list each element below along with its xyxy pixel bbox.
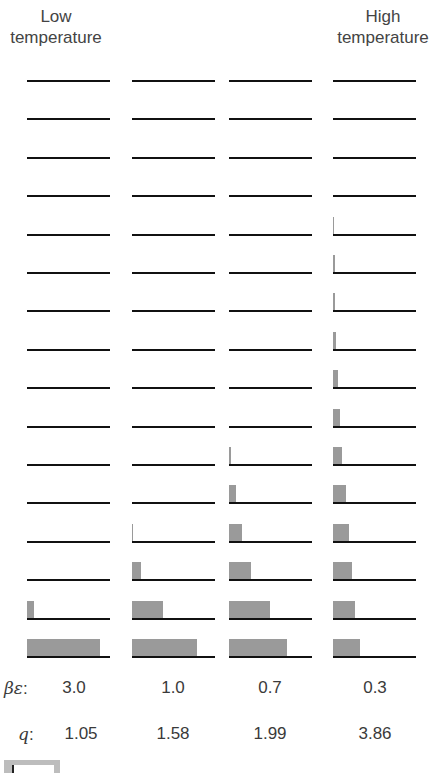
energy-level xyxy=(333,617,416,620)
level-line xyxy=(333,541,416,543)
level-line xyxy=(333,579,416,581)
level-line xyxy=(333,387,416,389)
level-line xyxy=(333,656,416,658)
energy-level xyxy=(27,117,110,120)
energy-level xyxy=(229,271,312,274)
energy-level xyxy=(333,117,416,120)
level-line xyxy=(333,195,416,197)
energy-level xyxy=(229,540,312,543)
energy-level xyxy=(132,425,215,428)
level-column-4 xyxy=(333,0,416,680)
level-line xyxy=(27,387,110,389)
level-line xyxy=(132,618,215,620)
level-line xyxy=(333,234,416,236)
energy-level xyxy=(132,233,215,236)
level-line xyxy=(333,157,416,159)
level-line xyxy=(27,272,110,274)
energy-level xyxy=(229,386,312,389)
energy-level xyxy=(132,540,215,543)
level-line xyxy=(229,80,312,82)
energy-level xyxy=(229,233,312,236)
q-value-3: 1.99 xyxy=(225,724,315,744)
energy-level xyxy=(229,194,312,197)
level-line xyxy=(27,118,110,120)
energy-level xyxy=(229,463,312,466)
energy-level xyxy=(27,156,110,159)
level-line xyxy=(27,349,110,351)
level-line xyxy=(132,80,215,82)
level-line xyxy=(229,310,312,312)
energy-level xyxy=(132,348,215,351)
level-line xyxy=(333,618,416,620)
level-line xyxy=(27,80,110,82)
level-line xyxy=(132,579,215,581)
beta-epsilon-value-3: 0.7 xyxy=(225,678,315,698)
level-line xyxy=(132,502,215,504)
level-line xyxy=(27,618,110,620)
level-line xyxy=(229,579,312,581)
level-line xyxy=(132,426,215,428)
q-value-4: 3.86 xyxy=(330,724,420,744)
level-line xyxy=(132,464,215,466)
energy-level xyxy=(229,501,312,504)
energy-level xyxy=(132,463,215,466)
energy-level xyxy=(229,309,312,312)
energy-level xyxy=(27,655,110,658)
level-line xyxy=(27,579,110,581)
level-line xyxy=(333,272,416,274)
energy-level xyxy=(132,271,215,274)
level-line xyxy=(229,541,312,543)
level-line xyxy=(333,464,416,466)
energy-level xyxy=(132,194,215,197)
energy-level xyxy=(333,386,416,389)
corner-mark xyxy=(4,760,60,773)
beta-epsilon-label: βε: xyxy=(4,678,28,699)
energy-level xyxy=(27,540,110,543)
energy-level xyxy=(229,117,312,120)
level-line xyxy=(333,426,416,428)
level-line xyxy=(132,234,215,236)
energy-level xyxy=(132,156,215,159)
energy-level xyxy=(229,425,312,428)
level-line xyxy=(132,656,215,658)
energy-level xyxy=(132,386,215,389)
energy-level xyxy=(132,655,215,658)
level-line xyxy=(132,349,215,351)
level-line xyxy=(333,502,416,504)
level-line xyxy=(27,234,110,236)
level-line xyxy=(333,349,416,351)
energy-level xyxy=(229,617,312,620)
level-line xyxy=(229,118,312,120)
energy-level xyxy=(27,271,110,274)
level-line xyxy=(229,656,312,658)
energy-level xyxy=(132,578,215,581)
energy-level xyxy=(132,501,215,504)
energy-level xyxy=(333,425,416,428)
level-line xyxy=(333,118,416,120)
energy-level xyxy=(27,194,110,197)
level-line xyxy=(132,195,215,197)
energy-level xyxy=(229,655,312,658)
energy-level xyxy=(27,578,110,581)
q-symbol: q xyxy=(18,724,29,744)
energy-level xyxy=(333,501,416,504)
energy-level xyxy=(333,194,416,197)
energy-level xyxy=(27,386,110,389)
energy-level xyxy=(27,233,110,236)
level-line xyxy=(27,502,110,504)
level-line xyxy=(132,157,215,159)
level-line xyxy=(132,118,215,120)
energy-level xyxy=(27,501,110,504)
beta-epsilon-symbol: βε xyxy=(4,678,23,698)
level-line xyxy=(27,310,110,312)
level-line xyxy=(229,195,312,197)
energy-level xyxy=(229,156,312,159)
energy-level xyxy=(333,309,416,312)
level-line xyxy=(27,426,110,428)
energy-level xyxy=(333,655,416,658)
energy-level xyxy=(333,578,416,581)
energy-level xyxy=(132,117,215,120)
level-line xyxy=(229,387,312,389)
level-line xyxy=(27,195,110,197)
energy-level xyxy=(333,348,416,351)
